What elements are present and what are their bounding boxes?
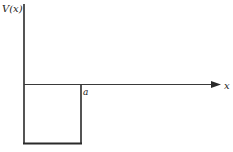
x-axis-label: x [224,80,230,91]
y-axis-label: V(x) [2,3,23,14]
well-edge-label: a [83,87,88,97]
diagram-canvas: V(x) x a [0,0,233,152]
potential-well-diagram: V(x) x a [0,0,233,152]
x-axis-arrow-icon [211,81,221,88]
